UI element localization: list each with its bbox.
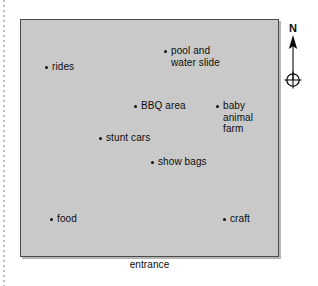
map-marker-dot-icon xyxy=(216,105,219,108)
map-marker-stunt-cars[interactable]: stunt cars xyxy=(99,132,150,144)
left-edge-dotted-rule xyxy=(3,0,5,286)
map-marker-dot-icon xyxy=(134,105,137,108)
map-marker-label: food xyxy=(57,213,77,225)
map-marker-rides[interactable]: rides xyxy=(45,61,74,73)
map-marker-food[interactable]: food xyxy=(50,213,77,225)
map-marker-label: rides xyxy=(52,61,74,73)
map-marker-dot-icon xyxy=(223,218,226,221)
map-marker-dot-icon xyxy=(50,218,53,221)
map-marker-label: pool and water slide xyxy=(171,45,220,68)
map-marker-dot-icon xyxy=(45,66,48,69)
showground-map-figure: pool and water slideridesBBQ areababy an… xyxy=(0,0,318,286)
map-marker-label: baby animal farm xyxy=(223,100,253,135)
compass-needle-icon xyxy=(281,35,305,104)
map-marker-label: show bags xyxy=(158,156,207,168)
map-marker-label: BBQ area xyxy=(141,100,186,112)
map-marker-label: craft xyxy=(230,213,250,225)
compass-rose: N xyxy=(281,22,305,104)
map-marker-dot-icon xyxy=(99,137,102,140)
map-marker-baby-animal-farm[interactable]: baby animal farm xyxy=(216,100,253,135)
compass-north-label: N xyxy=(281,22,305,34)
map-marker-dot-icon xyxy=(151,161,154,164)
map-marker-show-bags[interactable]: show bags xyxy=(151,156,207,168)
map-marker-craft[interactable]: craft xyxy=(223,213,250,225)
map-marker-label: stunt cars xyxy=(106,132,150,144)
map-marker-bbq-area[interactable]: BBQ area xyxy=(134,100,186,112)
entrance-caption: entrance xyxy=(20,259,279,271)
map-marker-pool-and-water-slide[interactable]: pool and water slide xyxy=(164,45,220,68)
map-marker-dot-icon xyxy=(164,50,167,53)
